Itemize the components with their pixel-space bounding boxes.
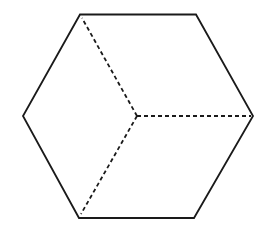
hidden-edge-top-left [82,18,137,116]
cube-hexagon-diagram [0,0,265,226]
hidden-edge-bottom-left [81,116,137,214]
diagram-canvas [0,0,265,226]
